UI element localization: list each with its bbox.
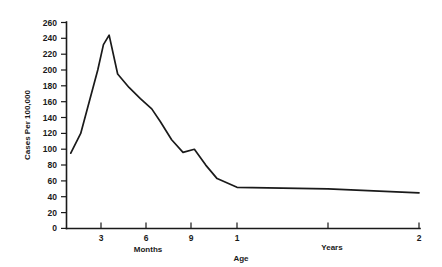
y-tick-label: 120 <box>43 128 57 138</box>
y-tick-label: 40 <box>48 192 58 202</box>
y-tick-label: 60 <box>48 176 58 186</box>
y-axis-tick-labels: 260 240 220 200 180 160 140 120 100 80 6… <box>43 18 57 234</box>
x-axis-group-label-years: Years <box>321 243 343 252</box>
x-tick-label: 9 <box>189 233 194 243</box>
y-tick-label: 160 <box>43 97 57 107</box>
y-tick-label: 240 <box>43 33 57 43</box>
x-axis-ticks <box>101 223 419 229</box>
y-tick-label: 140 <box>43 113 57 123</box>
y-tick-label: 0 <box>52 223 57 233</box>
x-tick-label: 3 <box>99 233 104 243</box>
x-axis-tick-labels: 3 6 9 1 2 <box>99 233 422 243</box>
x-tick-label: 2 <box>417 233 422 243</box>
x-tick-label: 6 <box>144 233 149 243</box>
data-series-line <box>71 35 419 193</box>
y-tick-label: 180 <box>43 81 57 91</box>
y-tick-label: 20 <box>48 208 58 218</box>
line-chart: 260 240 220 200 180 160 140 120 100 80 6… <box>0 0 442 267</box>
y-tick-label: 100 <box>43 144 57 154</box>
y-axis-ticks <box>61 23 67 229</box>
chart-container: 260 240 220 200 180 160 140 120 100 80 6… <box>0 0 442 267</box>
y-tick-label: 260 <box>43 18 57 28</box>
y-axis-title: Cases Per 100,000 <box>23 90 32 160</box>
y-tick-label: 200 <box>43 65 57 75</box>
x-axis-group-label-months: Months <box>134 245 163 254</box>
y-tick-label: 80 <box>48 160 58 170</box>
x-tick-label: 1 <box>235 233 240 243</box>
x-axis-title: Age <box>233 254 249 263</box>
y-tick-label: 220 <box>43 49 57 59</box>
